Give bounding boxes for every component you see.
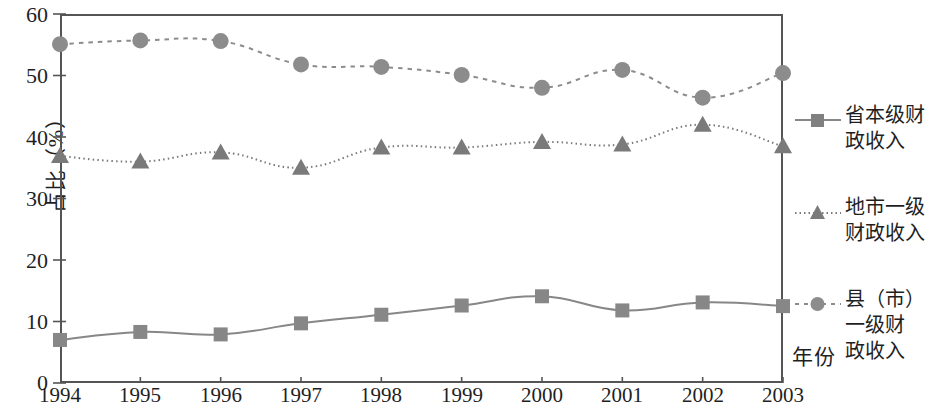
legend-label-provincial: 省本级财 政收入 bbox=[845, 102, 929, 154]
legend-label-prefecture-line1: 地市一级 bbox=[845, 194, 929, 220]
y-tick-label-10: 10 bbox=[2, 311, 48, 333]
legend-label-provincial-line1: 省本级财 bbox=[845, 102, 929, 128]
x-tick-label-1999: 1999 bbox=[422, 385, 502, 406]
x-tick-label-2002: 2002 bbox=[663, 385, 743, 406]
x-tick-label-2001: 2001 bbox=[582, 385, 662, 406]
legend-label-county-line3: 政收入 bbox=[845, 338, 929, 364]
plot-area bbox=[60, 14, 783, 383]
legend-label-county-line2: 一级财 bbox=[845, 312, 929, 338]
x-tick-label-2003: 2003 bbox=[743, 385, 823, 406]
legend-label-county-line1: 县（市） bbox=[845, 286, 929, 312]
legend-label-prefecture-line2: 财政收入 bbox=[845, 220, 929, 246]
legend-label-county: 县（市） 一级财 政收入 bbox=[845, 286, 929, 364]
legend-label-prefecture: 地市一级 财政收入 bbox=[845, 194, 929, 246]
y-tick-label-30: 30 bbox=[2, 188, 48, 210]
x-tick-label-1998: 1998 bbox=[341, 385, 421, 406]
x-tick-label-1995: 1995 bbox=[100, 385, 180, 406]
x-tick-label-1997: 1997 bbox=[261, 385, 341, 406]
legend-label-provincial-line2: 政收入 bbox=[845, 128, 929, 154]
y-tick-label-50: 50 bbox=[2, 65, 48, 87]
x-axis-title: 年份 bbox=[792, 340, 836, 370]
x-tick-label-2000: 2000 bbox=[502, 385, 582, 406]
x-tick-label-1994: 1994 bbox=[20, 385, 100, 406]
x-tick-label-1996: 1996 bbox=[181, 385, 261, 406]
legend-sample-triangle-icon bbox=[795, 204, 841, 220]
legend-sample-square-icon bbox=[795, 112, 841, 128]
y-tick-label-40: 40 bbox=[2, 127, 48, 149]
chart-figure: 占比（%） 60 50 40 30 20 10 0 1994 1995 1996… bbox=[0, 0, 929, 410]
y-tick-label-60: 60 bbox=[2, 4, 48, 26]
y-tick-label-20: 20 bbox=[2, 250, 48, 272]
legend-sample-circle-icon bbox=[795, 296, 841, 312]
